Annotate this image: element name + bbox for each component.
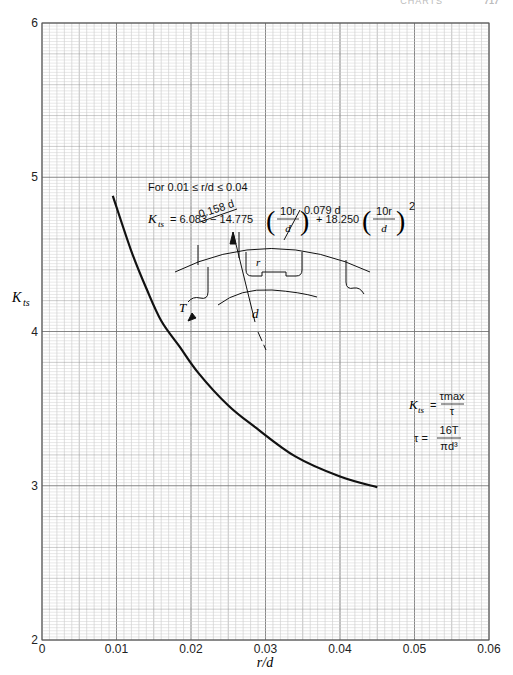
dim-depth-label: 0.079 d (304, 204, 341, 216)
frac2-den: d (381, 222, 387, 234)
kts-def-num: τmax (439, 390, 465, 402)
keyway-center (246, 252, 302, 276)
paren-open-1: ( (266, 205, 275, 236)
frac2-num: 10r (376, 205, 392, 217)
x-tick-label: 0.04 (328, 642, 352, 656)
formula-exponent: 2 (409, 200, 415, 212)
label-torque: T (179, 300, 187, 315)
torque-arrowhead (188, 313, 196, 321)
y-axis-label: K ts (11, 290, 30, 308)
paren-close-2: ) (396, 205, 405, 236)
kts-def-den: τ (450, 405, 455, 417)
x-axis-label: r/d (257, 655, 274, 670)
tau-def-num: 16T (440, 424, 459, 436)
paren-open-2: ( (362, 205, 371, 236)
label-diameter: d (252, 306, 259, 321)
y-tick-label: 6 (31, 16, 38, 30)
formula-lhs: K (147, 211, 158, 226)
range-condition: For 0.01 ≤ r/d ≤ 0.04 (148, 181, 248, 193)
kts-def-sub: ts (418, 405, 425, 415)
x-tick-label: 0.01 (105, 642, 129, 656)
shaft-outer-arc (175, 249, 370, 273)
y-tick-label: 5 (31, 170, 38, 184)
x-axis-ticks: 00.010.020.030.040.050.06 (39, 642, 501, 656)
y-tick-label: 4 (31, 325, 38, 339)
x-tick-label: 0.02 (179, 642, 203, 656)
y-axis-ticks: 23456 (31, 16, 38, 647)
kts-definition: K ts = τmax τ (408, 390, 465, 417)
diagram-labels: 0.158 d 0.079 d r T d (179, 197, 341, 321)
y-tick-label: 3 (31, 479, 38, 493)
formula-lhs-sub: ts (158, 219, 165, 229)
frac1-num: 10r (280, 205, 296, 217)
y-axis-label-main: K (11, 290, 22, 305)
x-tick-label: 0.05 (403, 642, 427, 656)
label-r: r (256, 256, 261, 268)
tau-def-den: πd³ (440, 440, 458, 452)
diameter-arrowhead (230, 232, 236, 244)
x-tick-label: 0.06 (477, 642, 501, 656)
kts-curve (113, 196, 378, 488)
x-tick-label: 0 (39, 642, 46, 656)
grid (42, 23, 489, 640)
y-tick-label: 2 (31, 633, 38, 647)
kts-def-eq: = (430, 399, 436, 411)
formula-block: For 0.01 ≤ r/d ≤ 0.04 K ts = 6.083 − 14.… (147, 181, 415, 236)
tau-definition: τ = 16T πd³ (414, 424, 461, 452)
chart: 00.010.020.030.040.050.06 23456 r/d K ts… (0, 0, 513, 675)
x-tick-label: 0.03 (254, 642, 278, 656)
y-axis-label-sub: ts (23, 297, 30, 308)
tau-def-lhs: τ = (414, 432, 428, 444)
